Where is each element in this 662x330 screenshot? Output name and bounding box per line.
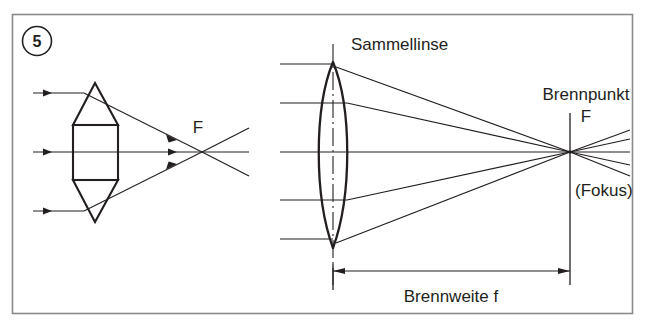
optics-diagram-canvas: 5 <box>0 0 662 330</box>
left-focal-point-label: F <box>193 118 203 137</box>
lens-name-label: Sammellinse <box>351 35 448 54</box>
focal-point-title-label: Brennpunkt <box>543 85 630 104</box>
focal-length-label: Brennweite f <box>404 287 499 306</box>
focal-point-symbol-label: F <box>581 107 591 126</box>
figure-number-label: 5 <box>33 33 42 50</box>
focal-point-alt-label: (Fokus) <box>575 181 633 200</box>
focal-point-marker <box>568 150 572 154</box>
optics-figure: 5 <box>0 0 662 330</box>
